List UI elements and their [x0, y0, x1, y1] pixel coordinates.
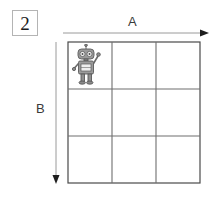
grid-cell-r1c1[interactable]: [112, 89, 156, 136]
grid-cell-r2c2[interactable]: [156, 136, 200, 183]
axis-arrow-b: [53, 42, 60, 184]
grid-cell-r0c2[interactable]: [156, 42, 200, 89]
figure-canvas: 2 A B: [0, 0, 216, 199]
grid-cell-r2c0[interactable]: [68, 136, 112, 183]
grid-cell-r1c0[interactable]: [68, 89, 112, 136]
robot-sprite: [72, 44, 106, 86]
axis-arrow-a: [63, 30, 209, 37]
axis-a-arrowhead-icon: [200, 30, 209, 37]
grid-cell-r2c1[interactable]: [112, 136, 156, 183]
grid-cell-r1c2[interactable]: [156, 89, 200, 136]
grid-cell-r0c1[interactable]: [112, 42, 156, 89]
robot-icon: [72, 44, 106, 86]
figure-vector-layer: [0, 0, 216, 199]
axis-b-arrowhead-icon: [53, 175, 60, 184]
